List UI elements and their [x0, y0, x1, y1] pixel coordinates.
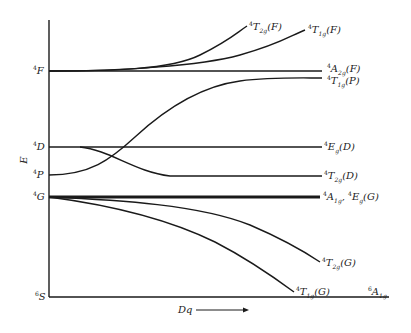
- term-label-6S: 6S: [35, 292, 46, 302]
- state-label-4T2g-G: 4T2g(G): [322, 258, 356, 270]
- state-label-4Eg-D: 4Eg(D): [324, 142, 355, 154]
- state-label-4T1g-G: 4T1g(G): [296, 287, 330, 299]
- curve-4T2g-D: [80, 147, 322, 176]
- curve-4T1g-P: [49, 78, 322, 175]
- term-label-4F: 4F: [33, 66, 44, 76]
- state-label-4T2g-D: 4T2g(D): [324, 171, 358, 183]
- curve-4T1g-G: [49, 197, 294, 292]
- dq-arrow-head: [243, 308, 249, 313]
- state-label-6A1g: 6A1g: [368, 287, 387, 299]
- energy-diagram: [0, 0, 411, 333]
- curve-4T1g-F: [49, 30, 305, 71]
- term-label-4G: 4G: [33, 192, 45, 202]
- state-label-4T1g-P: 4T1g(P): [327, 76, 360, 88]
- x-axis-label: Dq: [178, 305, 192, 315]
- y-axis-label: E: [19, 156, 29, 163]
- state-label-4A1g-4Eg-G: 4A1g, 4Eg(G): [323, 192, 379, 204]
- curve-4T2g-F: [49, 26, 247, 71]
- state-label-4T2g-F: 4T2g(F): [249, 22, 282, 34]
- term-label-4D: 4D: [33, 142, 45, 152]
- term-label-4P: 4P: [33, 170, 44, 180]
- state-label-4T1g-F: 4T1g(F): [308, 25, 341, 37]
